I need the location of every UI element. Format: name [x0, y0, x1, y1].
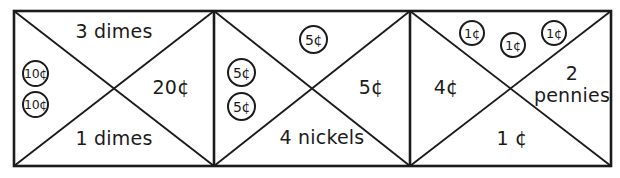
box-2-left-coin-1: 5¢ [227, 58, 256, 87]
box-1-right-label: 20¢ [136, 78, 206, 97]
box-1-bottom-label: 1 dimes [44, 129, 184, 148]
box-3-bottom-label: 1 ¢ [452, 129, 572, 148]
box-3-left-label: 4¢ [416, 78, 476, 97]
box-1-coin-1: 10¢ [22, 60, 49, 87]
box-1-coin-2: 10¢ [22, 91, 49, 118]
box-3-top-coin-3: 1¢ [541, 20, 567, 46]
box-2-right-label: 5¢ [336, 78, 406, 97]
coin-value-diagram: 3 dimes 1 dimes 20¢ 10¢ 10¢ 5¢ 5¢ 5¢ 4 n… [0, 0, 620, 178]
box-3-top-coin-1: 1¢ [459, 20, 485, 46]
box-2-top-coin-1: 5¢ [299, 25, 328, 54]
box-3-right-label-line-1: 2 [528, 63, 616, 84]
box-2-left-coin-2: 5¢ [227, 92, 256, 121]
box-1-top-label: 3 dimes [44, 22, 184, 41]
box-3-top-coin-2: 1¢ [500, 32, 526, 58]
box-3-right-label-line-2: pennies [528, 85, 616, 106]
box-2-bottom-label: 4 nickels [252, 128, 392, 147]
